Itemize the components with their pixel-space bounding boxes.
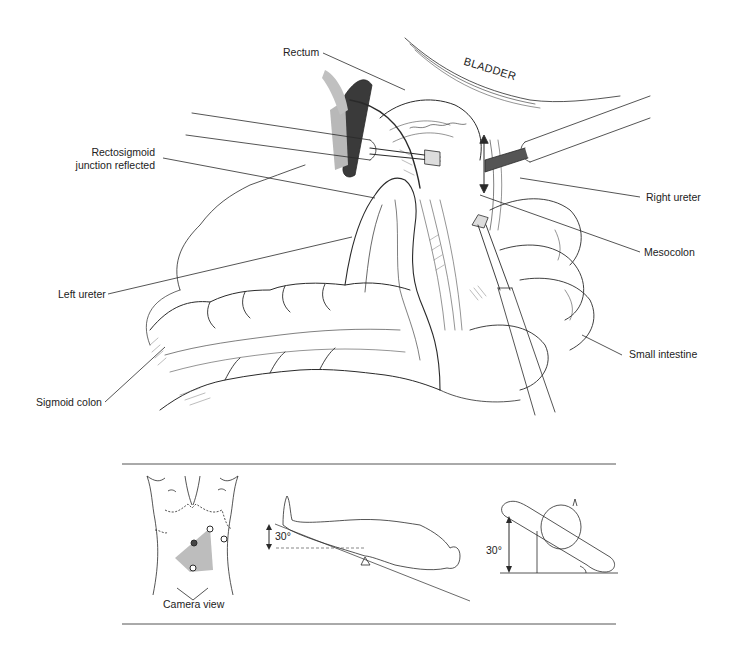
- label-right-ureter: Right ureter: [646, 191, 701, 204]
- trendelenburg-angle-label: 30°: [275, 530, 291, 542]
- surgical-illustration: Rectum BLADDER Rectosigmoid junction ref…: [0, 0, 729, 648]
- label-rectosigmoid-line2: junction reflected: [60, 159, 155, 172]
- label-rectosigmoid-line1: Rectosigmoid: [60, 146, 155, 159]
- camera-view-caption: Camera view: [163, 598, 224, 610]
- label-mesocolon: Mesocolon: [644, 246, 695, 259]
- laparoscopic-field-drawing: [0, 0, 729, 648]
- label-rectosigmoid-junction: Rectosigmoid junction reflected: [60, 146, 155, 172]
- label-rectum: Rectum: [283, 46, 319, 59]
- label-small-intestine: Small intestine: [629, 348, 697, 361]
- label-left-ureter: Left ureter: [58, 288, 106, 301]
- label-sigmoid-colon: Sigmoid colon: [36, 396, 102, 409]
- lateral-tilt-angle-label: 30°: [486, 544, 502, 556]
